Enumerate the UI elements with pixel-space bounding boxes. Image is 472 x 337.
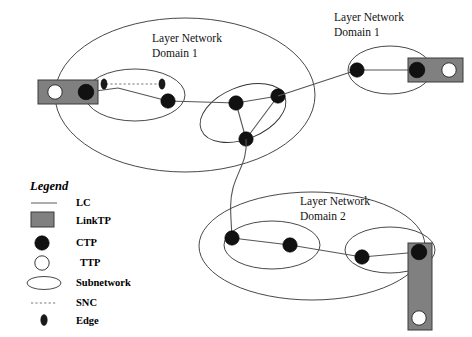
lc-d1-to-d1right bbox=[278, 70, 357, 96]
ctp-node-d2-d bbox=[411, 244, 427, 260]
legend-ttp-swatch bbox=[35, 256, 49, 270]
ctp-node-d2-a bbox=[225, 231, 239, 245]
legend-subnetwork-swatch bbox=[27, 277, 61, 290]
lc-d2-a-to-b bbox=[232, 238, 290, 245]
ttp-node-left bbox=[48, 85, 62, 99]
ctp-node-d2-c bbox=[355, 250, 369, 264]
domain1right-label-line1: Layer Network bbox=[334, 11, 404, 24]
lc-d2-b-to-c bbox=[290, 245, 362, 257]
domain1-label-line2: Domain 1 bbox=[152, 47, 198, 59]
ctp-node-left-in-linktp bbox=[78, 84, 94, 100]
legend-label-ttp: TTP bbox=[80, 257, 101, 268]
legend-ctp-swatch bbox=[35, 236, 49, 250]
lc-ctp-b-to-ctp-c bbox=[168, 101, 236, 103]
legend-edge-swatch bbox=[41, 314, 48, 325]
lc-ctp-a-to-ctp-b bbox=[118, 88, 168, 101]
lc-domain1-to-domain2 bbox=[231, 139, 247, 238]
ctp-node-d1right-b bbox=[409, 62, 425, 78]
subnetwork-domain2-inner-left bbox=[224, 221, 320, 269]
ttp-node-right bbox=[442, 63, 456, 77]
edge-marker-right bbox=[159, 79, 165, 89]
ctp-node-d1-b bbox=[229, 96, 243, 110]
ttp-node-bottom bbox=[412, 311, 426, 325]
ctp-node-d2-b bbox=[283, 238, 297, 252]
legend-label-ctp: CTP bbox=[76, 237, 98, 248]
edge-marker-left bbox=[101, 79, 107, 89]
legend-label-subnetwork: Subnetwork bbox=[76, 277, 131, 288]
legend-linktp-swatch bbox=[31, 212, 54, 227]
diagram-canvas: Layer Network Domain 1 Layer Network Dom… bbox=[0, 0, 472, 337]
network-diagram: Layer Network Domain 1 Layer Network Dom… bbox=[0, 0, 472, 337]
domain2-label-line1: Layer Network bbox=[300, 195, 370, 208]
ctp-node-d1-a bbox=[161, 94, 175, 108]
ctp-node-d1right-a bbox=[350, 63, 364, 77]
legend-label-linktp: LinkTP bbox=[76, 215, 112, 226]
legend-title: Legend bbox=[29, 179, 69, 193]
domain1-label-line1: Layer Network bbox=[152, 32, 222, 45]
domain1right-label-line2: Domain 1 bbox=[334, 26, 380, 38]
subnetwork-domain2-outer bbox=[199, 192, 425, 300]
legend-label-lc: LC bbox=[76, 197, 91, 208]
legend-label-snc: SNC bbox=[76, 297, 97, 308]
domain2-label-line2: Domain 2 bbox=[300, 210, 346, 222]
legend-label-edge: Edge bbox=[76, 315, 99, 326]
